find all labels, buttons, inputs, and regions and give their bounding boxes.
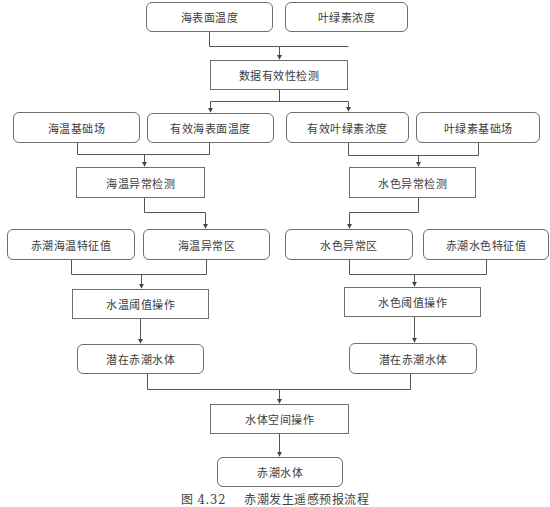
node-water-spatial-operation: 水体空间操作: [210, 404, 349, 434]
node-hab-sst-feature: 赤潮海温特征值: [7, 229, 135, 260]
figure-title: 赤潮发生遥感预报流程: [244, 493, 369, 507]
node-hab-water: 赤潮水体: [217, 457, 343, 487]
node-color-threshold-operation: 水色阈值操作: [344, 287, 481, 317]
node-sst-anomaly-area: 海温异常区: [143, 229, 270, 260]
node-valid-chlorophyll: 有效叶绿素浓度: [286, 112, 409, 143]
node-sst-anomaly-detection: 海温异常检测: [76, 167, 205, 198]
node-hab-color-feature: 赤潮水色特征值: [423, 229, 549, 260]
node-data-validity-check: 数据有效性检测: [210, 60, 348, 90]
figure-caption: 图 4.32 赤潮发生遥感预报流程: [0, 490, 550, 507]
node-sst-base-field: 海温基础场: [13, 112, 140, 143]
figure-number: 图 4.32: [181, 493, 227, 507]
node-sst-threshold-operation: 水温阈值操作: [72, 289, 209, 319]
node-color-anomaly-detection: 水色异常检测: [349, 167, 476, 198]
node-chlorophyll-concentration: 叶绿素浓度: [285, 2, 408, 32]
node-chlorophyll-base-field: 叶绿素基础场: [416, 112, 540, 143]
node-potential-hab-water-right: 潜在赤潮水体: [349, 343, 477, 374]
node-potential-hab-water-left: 潜在赤潮水体: [77, 344, 204, 374]
node-color-anomaly-area: 水色异常区: [285, 229, 413, 260]
node-sea-surface-temperature: 海表面温度: [146, 2, 273, 32]
node-valid-sst: 有效海表面温度: [147, 113, 274, 143]
